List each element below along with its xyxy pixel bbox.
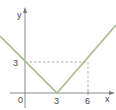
plot-canvas: y x 0 3 6 3 — [0, 0, 116, 110]
origin-label: 0 — [18, 95, 23, 105]
y-axis-arrow-icon — [23, 7, 27, 13]
x-tick-label-3: 3 — [54, 96, 59, 106]
x-axis-label: x — [105, 94, 110, 104]
graph-absolute-value: y x 0 3 6 3 — [0, 0, 116, 110]
y-axis-label: y — [17, 10, 22, 20]
x-tick-label-6: 6 — [85, 96, 90, 106]
y-tick-label-3: 3 — [13, 58, 18, 68]
x-axis-arrow-icon — [109, 91, 115, 95]
